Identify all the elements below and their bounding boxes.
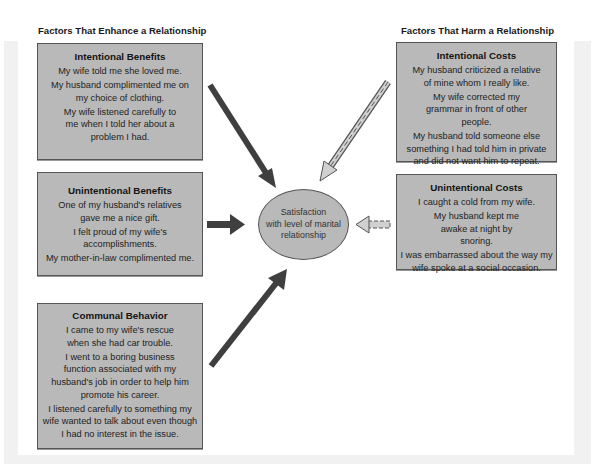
box-item: I felt proud of my wife's accomplishment… (38, 226, 202, 251)
center-line: with level of marital (266, 219, 341, 231)
box-item: My wife listened carefully to me when I … (38, 106, 202, 144)
box-item: I came to my wife's rescue when she had … (38, 324, 202, 349)
unintentional-benefits-box: Unintentional Benefits One of my husband… (37, 172, 203, 276)
box-item: I went to a boring business function ass… (38, 351, 202, 401)
box-item: My wife corrected my grammar in front of… (397, 91, 556, 129)
box-title: Intentional Benefits (38, 51, 202, 64)
box-title: Communal Behavior (38, 310, 202, 323)
box-item: I caught a cold from my wife. (397, 196, 556, 209)
box-item: One of my husband's relatives gave me a … (38, 199, 202, 224)
box-item: I was embarrassed about the way my wife … (397, 249, 556, 274)
center-line: Satisfaction (266, 207, 341, 219)
box-item: My mother-in-law complimented me. (38, 252, 202, 265)
box-title: Unintentional Benefits (38, 185, 202, 198)
box-title: Unintentional Costs (397, 182, 556, 195)
center-line: relationship (266, 230, 341, 242)
box-item: My husband kept me awake at night by sno… (397, 210, 556, 248)
box-item: My husband complimented me on my choice … (38, 79, 202, 104)
box-item: My husband criticized a relative of mine… (397, 64, 556, 89)
satisfaction-ellipse: Satisfaction with level of marital relat… (258, 189, 349, 260)
box-item: My wife told me she loved me. (38, 65, 202, 78)
communal-behavior-box: Communal Behavior I came to my wife's re… (37, 303, 203, 449)
enhance-header: Factors That Enhance a Relationship (38, 25, 206, 36)
intentional-benefits-box: Intentional Benefits My wife told me she… (37, 43, 203, 160)
box-title: Intentional Costs (397, 50, 556, 63)
intentional-costs-box: Intentional Costs My husband criticized … (396, 42, 557, 162)
box-item: I listened carefully to something my wif… (38, 403, 202, 441)
unintentional-costs-box: Unintentional Costs I caught a cold from… (396, 174, 557, 270)
box-item: My husband told someone else something I… (397, 130, 556, 168)
harm-header: Factors That Harm a Relationship (401, 25, 554, 36)
